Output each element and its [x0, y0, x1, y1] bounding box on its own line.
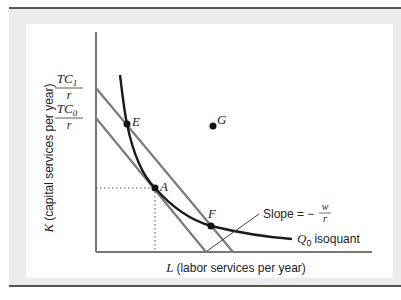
label-e: E — [131, 114, 140, 129]
svg-text:TC1: TC1 — [57, 71, 77, 88]
svg-text:TC0: TC0 — [57, 101, 78, 118]
svg-text:w: w — [322, 201, 329, 212]
slope-annotation: Slope = − w r — [263, 201, 331, 224]
intercept-label-tc0: TC0 r — [55, 101, 83, 132]
point-g — [210, 123, 217, 130]
svg-text:r: r — [67, 118, 72, 132]
svg-text:r: r — [67, 88, 72, 102]
svg-text:Q0isoquant: Q0isoquant — [297, 231, 360, 248]
point-f — [208, 223, 215, 230]
svg-text:Slope = −: Slope = − — [263, 207, 314, 221]
isoquant-label: Q0isoquant — [297, 231, 360, 248]
x-axis-label: L(labor services per year) — [165, 260, 306, 275]
y-axis-label: K(capital services per year) — [41, 83, 56, 233]
svg-text:r: r — [323, 213, 327, 224]
label-a: A — [159, 179, 168, 194]
isocost-isoquant-diagram: E A F G TC1 r TC0 r K(capital services p… — [0, 0, 401, 300]
point-a — [152, 185, 159, 192]
point-e — [124, 121, 131, 128]
label-g: G — [217, 112, 227, 127]
intercept-label-tc1: TC1 r — [55, 71, 83, 102]
label-f: F — [207, 206, 217, 221]
